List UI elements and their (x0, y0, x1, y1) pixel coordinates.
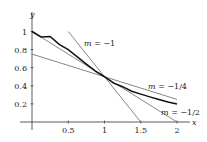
chart: x y 0.5 1 1.5 2 0.2 0.4 0.6 0.8 1 m = −1 (0, 0, 207, 142)
annotation-m-neg-1: m = −1 (84, 39, 115, 48)
y-tick-label: 0.4 (14, 82, 27, 91)
y-axis-label: y (29, 10, 35, 19)
y-tick-label: 0.6 (14, 64, 27, 73)
x-tick-label: 1 (102, 126, 107, 135)
x-tick-label: 1.5 (134, 126, 147, 135)
annotation-m-neg-half: m = −1/2 (161, 108, 200, 117)
annotation-m-neg-quarter: m = −1/4 (148, 82, 187, 91)
y-tick-label: 0.2 (14, 100, 27, 109)
annotations: m = −1 m = −1/4 m = −1/2 (84, 39, 200, 117)
x-ticks: 0.5 1 1.5 2 (62, 121, 180, 136)
y-ticks: 0.2 0.4 0.6 0.8 1 (14, 28, 33, 109)
x-tick-label: 0.5 (62, 126, 75, 135)
x-tick-label: 2 (174, 126, 179, 135)
y-tick-label: 0.8 (14, 46, 27, 55)
chart-svg: x y 0.5 1 1.5 2 0.2 0.4 0.6 0.8 1 m = −1 (0, 0, 207, 142)
y-tick-label: 1 (22, 28, 27, 37)
x-axis-label: x (192, 118, 197, 127)
